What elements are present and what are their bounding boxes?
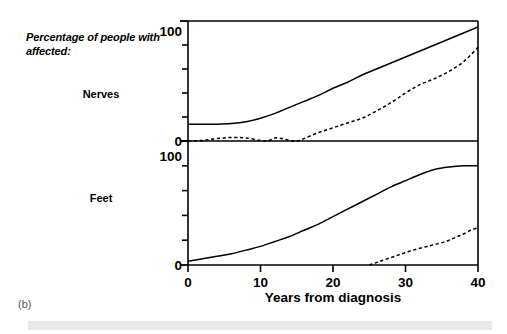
y-axis-description-label: Percentage of people with affected: <box>26 30 176 58</box>
series-line-nerves-dashed <box>188 47 478 141</box>
x-tick-label-40: 40 <box>470 275 485 290</box>
y-tick-label-bottom-0: 0 <box>174 258 182 273</box>
y-tick-label-top-0: 0 <box>174 134 182 149</box>
x-tick-label-10: 10 <box>253 275 268 290</box>
series-line-nerves-solid <box>188 27 478 124</box>
panel-label-nerves: Nerves <box>46 88 156 100</box>
bottom-divider-bar <box>28 321 492 330</box>
bottom-panel-frame <box>188 141 478 265</box>
x-axis-ticks <box>188 265 478 272</box>
x-axis-tick-labels: 010203040 <box>184 275 485 290</box>
y-tick-label-bottom-100: 100 <box>159 149 182 164</box>
series-line-feet-solid <box>188 166 478 262</box>
series-line-feet-dashed <box>369 228 478 265</box>
x-tick-label-0: 0 <box>184 275 192 290</box>
x-tick-label-20: 20 <box>325 275 340 290</box>
panel-label-feet: Feet <box>46 192 156 204</box>
figure-caption: (b) <box>18 298 31 310</box>
x-tick-label-30: 30 <box>398 275 413 290</box>
y-axis-ticks-top <box>180 21 188 141</box>
figure-panel-b: Percentage of people with affected: Nerv… <box>0 0 507 334</box>
x-axis-title: Years from diagnosis <box>265 290 402 305</box>
